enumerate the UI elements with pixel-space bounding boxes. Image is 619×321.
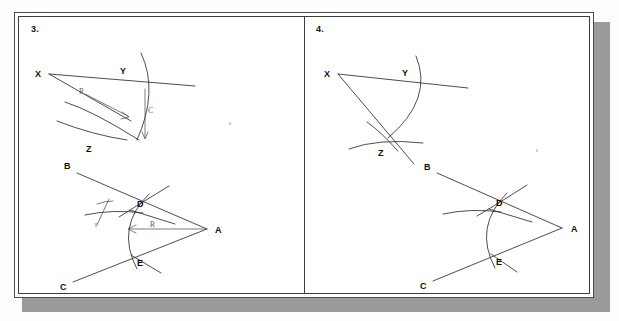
scanned-page: 3. [0, 0, 619, 321]
panel-4-number: 4. [316, 25, 324, 34]
label-C-panel4: C [420, 281, 427, 291]
figure-plate-outer-border: 3. [14, 12, 594, 298]
label-R-upper: R [79, 87, 84, 96]
label-C-upper: C [148, 106, 153, 115]
label-Y-panel4: Y [402, 68, 408, 78]
diagram-angle-bac-arcs-plain: B C A D E [419, 159, 594, 291]
label-X: X [35, 69, 41, 79]
panel-4: 4. X [304, 17, 589, 293]
label-D-lower: D [137, 199, 144, 209]
label-C-lower: C [60, 282, 67, 292]
label-A-lower: A [215, 225, 222, 235]
scan-speck-left [229, 122, 231, 125]
panel-3: 3. [19, 17, 304, 293]
label-R-lower: R [150, 220, 155, 229]
label-B-panel4: B [424, 162, 431, 172]
label-E-panel4: E [496, 257, 502, 267]
label-X-panel4: X [324, 69, 330, 79]
label-B-lower: B [64, 161, 71, 171]
label-Z: Z [86, 144, 92, 154]
panel-3-number: 3. [31, 25, 39, 34]
figure-plate-inner-border: 3. [18, 16, 590, 294]
label-Y: Y [120, 66, 126, 76]
scan-speck [536, 149, 538, 152]
label-D-panel4: D [496, 198, 503, 208]
label-E-lower: E [137, 258, 143, 268]
label-Z-panel4: Z [378, 148, 384, 158]
label-A-panel4: A [571, 224, 578, 234]
diagram-angle-xyz-with-arcs: X Y Z R C [27, 39, 212, 154]
diagram-angle-bac-with-arcs: B C A D E r R [57, 157, 232, 292]
diagram-angle-xyz-bisected: X Y Z [316, 39, 496, 164]
